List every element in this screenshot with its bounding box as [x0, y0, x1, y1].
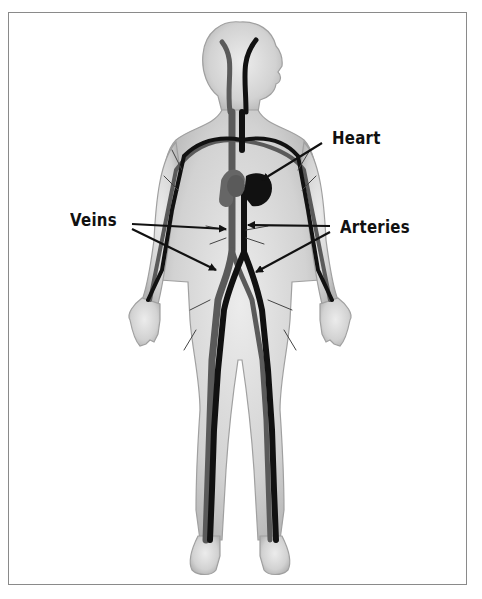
body-silhouette	[129, 22, 351, 575]
arteries-label: Arteries	[340, 217, 410, 237]
circulatory-figure	[0, 0, 482, 599]
arteries-pointer-upper	[248, 225, 330, 226]
heart-label: Heart	[332, 128, 381, 148]
veins-label: Veins	[70, 210, 117, 230]
